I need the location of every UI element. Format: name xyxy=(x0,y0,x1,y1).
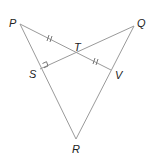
label-r: R xyxy=(72,143,80,155)
label-s: S xyxy=(29,68,37,80)
label-v: V xyxy=(115,69,124,81)
congruence-tick-tv xyxy=(93,58,98,65)
right-angle-marker-s xyxy=(43,62,49,68)
segment-pr xyxy=(20,24,76,139)
label-p: P xyxy=(9,17,17,29)
segment-qs xyxy=(40,26,134,69)
segment-pv xyxy=(20,24,111,70)
label-q: Q xyxy=(137,17,146,29)
geometry-diagram: P Q T S V R xyxy=(0,0,156,159)
label-t: T xyxy=(74,41,82,53)
segment-qr xyxy=(76,26,134,139)
